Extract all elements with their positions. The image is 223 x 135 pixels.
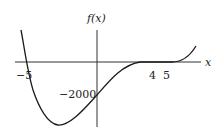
x-axis-label: x (205, 56, 212, 69)
tick-label-4: 4 (149, 69, 156, 82)
tick-label-neg2000: −2000 (59, 88, 96, 101)
function-plot: f(x) x −5 4 5 −2000 (0, 0, 223, 135)
tick-label-neg5: −5 (16, 69, 32, 82)
y-axis-label: f(x) (86, 12, 106, 25)
tick-label-5: 5 (163, 69, 170, 82)
